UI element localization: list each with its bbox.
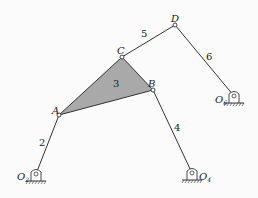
label-joint-c: C [117, 45, 125, 56]
label-link-5: 5 [141, 28, 147, 39]
label-o6: O6 [215, 94, 227, 106]
label-link-2: 2 [39, 137, 45, 148]
linkage-diagram: A B C D O2 O4 O6 2 3 4 5 6 [0, 0, 258, 198]
label-link-6: 6 [206, 51, 212, 62]
link-5 [122, 25, 175, 57]
label-o2: O2 [17, 171, 29, 183]
label-link-3: 3 [113, 78, 119, 89]
link-3-ternary [59, 57, 153, 115]
label-joint-d: D [170, 13, 179, 24]
label-joint-a: A [51, 105, 59, 116]
label-o4: O4 [199, 171, 211, 183]
link-6 [175, 25, 234, 96]
label-link-4: 4 [174, 122, 180, 133]
link-4 [153, 90, 192, 173]
label-joint-b: B [147, 78, 155, 89]
